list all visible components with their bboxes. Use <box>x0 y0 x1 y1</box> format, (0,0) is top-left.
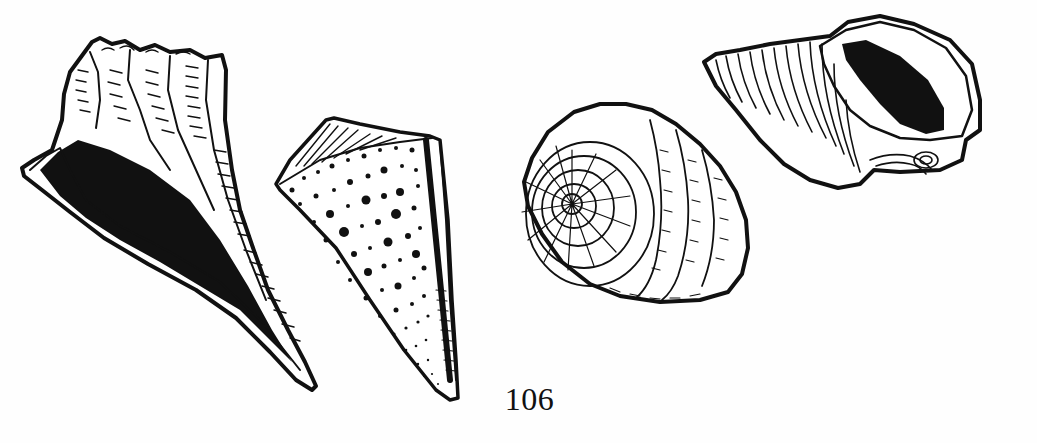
conch-shell-with-aperture <box>704 16 980 188</box>
book-page: 106 <box>0 0 1037 443</box>
page-number: 106 <box>0 381 1037 418</box>
lightning-whelk-shell <box>22 38 316 390</box>
seashell-illustrations <box>0 0 1037 443</box>
top-shell-apex-view <box>522 104 748 302</box>
